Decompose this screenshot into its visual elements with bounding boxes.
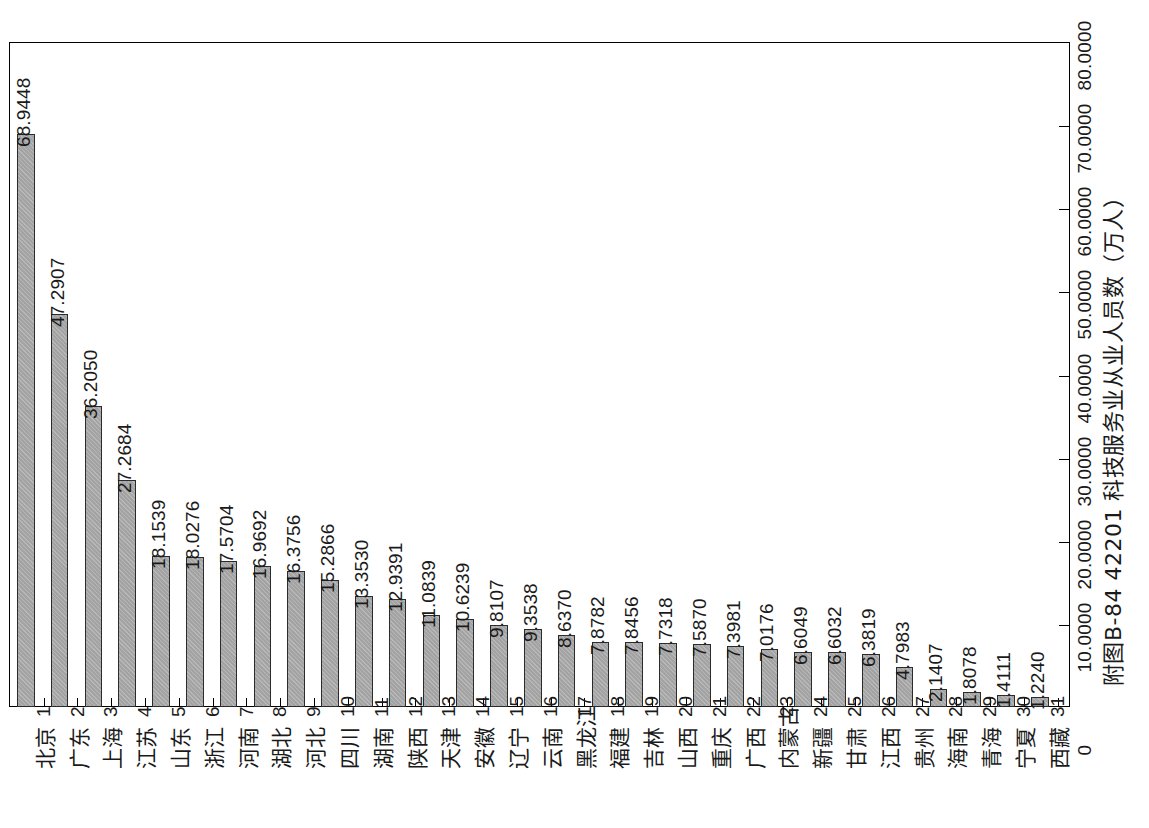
category-name-label: 山东 — [171, 727, 192, 769]
bar — [321, 580, 339, 707]
category-name-label: 甘肃 — [847, 727, 868, 769]
value-axis-tick-label: 40.0000 — [1074, 370, 1096, 423]
category-name-label: 浙江 — [205, 727, 226, 769]
category-axis-tick — [179, 698, 180, 706]
value-axis-tick — [1059, 292, 1069, 293]
category-name-label: 福建 — [610, 727, 631, 769]
bar — [287, 571, 305, 707]
bar — [186, 557, 204, 707]
bar-value-label: 2.1407 — [926, 643, 945, 702]
category-rank-label: 2 — [68, 706, 87, 717]
category-name-label: 上海 — [103, 727, 124, 769]
bar-value-label: 9.8107 — [487, 580, 506, 639]
category-rank-label: 8 — [270, 706, 289, 717]
bar-value-label: 7.8782 — [588, 596, 607, 655]
category-name-label: 辽宁 — [509, 727, 530, 769]
category-name-label: 广东 — [70, 727, 91, 769]
bar-value-label: 6.6032 — [825, 606, 844, 665]
category-rank-label: 7 — [237, 706, 256, 717]
bar-value-label: 1.8078 — [960, 646, 979, 705]
category-name-label: 陕西 — [408, 727, 429, 769]
bar — [423, 615, 441, 707]
category-name-label: 山西 — [678, 727, 699, 769]
category-name-label: 云南 — [543, 727, 564, 769]
bar-value-label: 6.6049 — [791, 606, 810, 665]
category-axis-tick — [111, 698, 112, 706]
bar-value-label: 7.8456 — [622, 596, 641, 655]
category-name-label: 西藏 — [1050, 727, 1071, 769]
bar-value-label: 7.3981 — [724, 600, 743, 659]
category-name-label: 安徽 — [475, 727, 496, 769]
bar-value-label: 7.7318 — [656, 597, 675, 656]
value-axis-tick — [1059, 542, 1069, 543]
bar-value-label: 18.1539 — [149, 500, 168, 569]
bar — [389, 599, 407, 707]
bar-value-label: 68.9448 — [14, 78, 33, 147]
category-rank-label: 6 — [203, 706, 222, 717]
value-axis-tick — [1059, 459, 1069, 460]
bar-value-label: 1.4111 — [994, 652, 1013, 708]
bar-value-label: 11.0839 — [419, 560, 438, 628]
bar-value-label: 17.5704 — [217, 505, 236, 574]
bar-value-label: 10.6239 — [453, 562, 472, 631]
value-axis-tick — [1059, 209, 1069, 210]
value-axis-tick-label: 0 — [1074, 703, 1096, 756]
bar — [220, 561, 238, 707]
category-rank-label: 31 — [1048, 696, 1067, 717]
bar-value-label: 13.3530 — [352, 540, 371, 609]
value-axis-tick-label: 60.0000 — [1074, 204, 1096, 257]
value-axis-tick-label: 10.0000 — [1074, 619, 1096, 672]
category-name-label: 黑龙江 — [577, 706, 598, 769]
bar-value-label: 36.2050 — [81, 350, 100, 419]
bar — [17, 134, 35, 707]
value-axis-tick-label: 20.0000 — [1074, 536, 1096, 589]
category-rank-label: 5 — [169, 706, 188, 717]
bar-value-label: 16.9692 — [250, 510, 269, 579]
bar-value-label: 7.5870 — [690, 598, 709, 657]
category-name-label: 广西 — [746, 727, 767, 769]
value-axis-tick-label: 80.0000 — [1074, 38, 1096, 91]
category-axis-tick — [246, 698, 247, 706]
category-name-label: 新疆 — [813, 727, 834, 769]
bar-value-label: 47.2907 — [48, 258, 67, 327]
category-name-label: 重庆 — [712, 727, 733, 769]
category-name-label: 四川 — [340, 727, 361, 769]
figure-canvas: 010.000020.000030.000040.000050.000060.0… — [0, 0, 1149, 828]
value-axis-tick — [1059, 126, 1069, 127]
category-name-label: 宁夏 — [1016, 727, 1037, 769]
category-axis-tick — [280, 698, 281, 706]
category-rank-label: 4 — [135, 706, 154, 717]
category-name-label: 河南 — [239, 727, 260, 769]
category-name-label: 湖南 — [374, 727, 395, 769]
bar-value-label: 8.6370 — [555, 589, 574, 648]
bar-value-label: 15.2866 — [318, 524, 337, 593]
figure-caption: 附图B-84 42201 科技服务业从业人员数（万人） — [1103, 186, 1125, 687]
value-axis-tick — [1059, 376, 1069, 377]
bar-value-label: 27.2684 — [115, 424, 134, 493]
category-name-label: 江西 — [881, 727, 902, 769]
category-name-label: 青海 — [982, 727, 1003, 769]
category-name-label: 海南 — [948, 727, 969, 769]
bar — [118, 480, 136, 707]
category-axis-tick — [213, 698, 214, 706]
category-rank-label: 3 — [101, 706, 120, 717]
bar-value-label: 4.7983 — [893, 621, 912, 680]
bar-value-label: 6.3819 — [859, 608, 878, 667]
category-name-label: 湖北 — [272, 727, 293, 769]
bar-value-label: 18.0276 — [183, 501, 202, 570]
category-axis-tick — [44, 698, 45, 706]
category-axis-tick — [314, 698, 315, 706]
category-name-label: 北京 — [36, 727, 57, 769]
bar — [51, 314, 69, 707]
category-rank-label: 9 — [304, 706, 323, 717]
category-axis-tick — [77, 698, 78, 706]
bar-value-label: 16.3756 — [284, 514, 303, 583]
category-name-label: 河北 — [306, 727, 327, 769]
category-name-label: 江苏 — [137, 727, 158, 769]
value-axis-tick-label: 50.0000 — [1074, 287, 1096, 340]
value-axis-tick — [1059, 625, 1069, 626]
category-name-label: 内蒙古 — [779, 706, 800, 769]
bar — [355, 596, 373, 707]
category-name-label: 吉林 — [644, 727, 665, 769]
bar-value-label: 12.9391 — [386, 543, 405, 612]
